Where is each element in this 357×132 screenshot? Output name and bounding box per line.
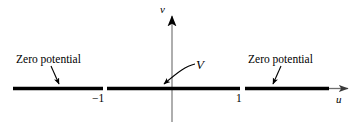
potential-v-leader-arrow-icon bbox=[164, 64, 195, 84]
potential-v-label: V bbox=[196, 58, 204, 71]
figure-container: Zero potential Zero potential v u V −1 1 bbox=[0, 0, 357, 132]
zero-potential-right-leader-arrow-icon bbox=[273, 66, 281, 84]
zero-potential-left-label: Zero potential bbox=[16, 54, 81, 66]
zero-potential-left-leader-arrow-icon bbox=[51, 66, 59, 84]
vertical-axis-label: v bbox=[160, 4, 165, 15]
zero-potential-right-label: Zero potential bbox=[248, 54, 313, 66]
tick-label-negative-one: −1 bbox=[92, 93, 104, 105]
horizontal-axis-label: u bbox=[336, 94, 342, 105]
tick-label-positive-one: 1 bbox=[236, 93, 242, 105]
figure-canvas bbox=[0, 0, 357, 132]
